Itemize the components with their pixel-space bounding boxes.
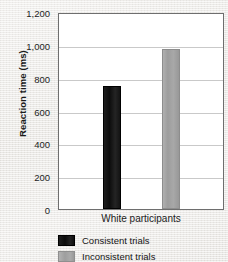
legend-item: Inconsistent trials [58,249,228,262]
y-axis-tick-label: 200 [34,172,50,183]
bar-inconsistent-trials [162,49,180,209]
y-axis-tick-label: 600 [34,106,50,117]
y-axis-tick-label: 1,000 [26,40,50,51]
gridline [59,80,223,81]
y-axis-tick-label: 400 [34,139,50,150]
legend-item: Consistent trials [58,233,228,247]
y-axis-tick-labels: 02004006008001,0001,200 [0,13,54,210]
gridline [59,113,223,114]
y-axis-tick-label: 1,200 [26,8,50,19]
x-axis-category-label: White participants [58,213,224,224]
y-axis-tick-label: 0 [45,205,50,216]
gray-swatch [58,251,75,262]
legend-item-label: Consistent trials [82,235,150,246]
gridline [59,145,223,146]
chart-legend: Consistent trialsInconsistent trials [58,233,228,262]
gridline [59,178,223,179]
gridline [59,47,223,48]
plot-area [58,13,224,210]
black-swatch [58,235,75,246]
legend-item-label: Inconsistent trials [82,251,155,262]
bar-consistent-trials [103,86,121,209]
y-axis-tick-label: 800 [34,73,50,84]
bar-chart: Reaction time (ms) 02004006008001,0001,2… [0,0,228,262]
